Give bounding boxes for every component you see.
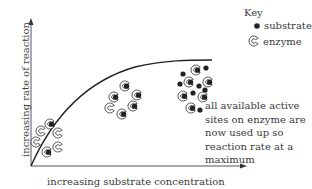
key-title: Key — [244, 7, 263, 18]
substrate-dot-icon — [253, 22, 261, 30]
key-item-enzyme: enzyme — [248, 35, 302, 47]
y-axis-label: increasing rate of reaction — [20, 10, 31, 170]
key-item-substrate: substrate — [253, 20, 312, 31]
plateau-annotation: all available active sites on enzyme are… — [205, 99, 312, 167]
key-label-enzyme: enzyme — [263, 36, 302, 47]
key-label-substrate: substrate — [264, 20, 312, 31]
medium-concentration-cluster — [105, 81, 141, 119]
low-concentration-cluster — [31, 119, 62, 157]
enzyme-c-icon — [248, 35, 260, 47]
x-axis-label: increasing substrate concentration — [47, 176, 225, 187]
